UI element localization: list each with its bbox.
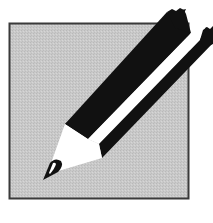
pencil-edit-icon	[0, 0, 213, 223]
